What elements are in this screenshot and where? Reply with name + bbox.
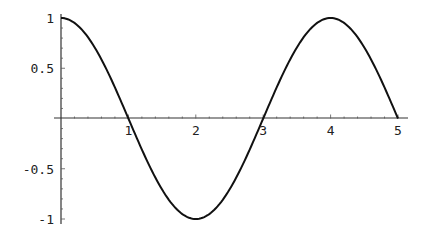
y-tick-label: 1 <box>46 11 54 26</box>
x-tick-label: 5 <box>394 123 402 138</box>
y-tick-label: -1 <box>38 212 54 227</box>
y-tick-label: 0.5 <box>31 61 54 76</box>
x-tick-label: 2 <box>192 123 200 138</box>
y-tick-label: -0.5 <box>23 162 54 177</box>
tick-labels: 1234510.5-0.5-1 <box>23 11 402 227</box>
x-tick-label: 4 <box>327 123 335 138</box>
chart: 1234510.5-0.5-1 <box>0 0 423 236</box>
